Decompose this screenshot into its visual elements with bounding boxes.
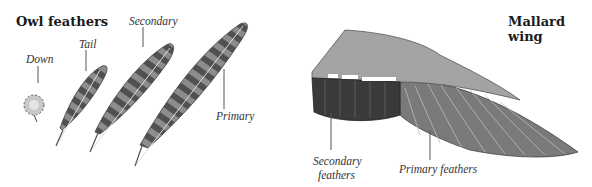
- secondary-label: Secondary: [129, 15, 178, 27]
- owl-feathers-title: Owl feathers: [16, 14, 108, 29]
- mallard-wing-title: Mallard wing: [508, 14, 592, 44]
- tail-label: Tail: [79, 38, 96, 50]
- wing-secondary-label-line2: feathers: [318, 169, 355, 181]
- down-feather: [24, 95, 44, 122]
- mallard-wing: [312, 30, 578, 157]
- wing-primary-label: Primary feathers: [399, 163, 477, 175]
- wing-secondary-label-line1: Secondary: [313, 155, 362, 167]
- primary-feather: [135, 23, 248, 166]
- down-label: Down: [26, 53, 53, 65]
- primary-label: Primary: [216, 110, 254, 122]
